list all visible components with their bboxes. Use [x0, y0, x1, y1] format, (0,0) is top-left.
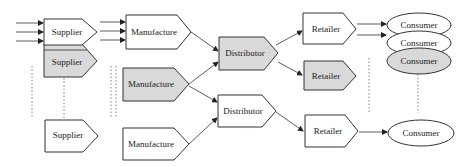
supplier-node-1[interactable]: Supplier — [44, 19, 97, 45]
supplier-label: Supplier — [53, 130, 84, 140]
manufacture-node-1[interactable]: Manufacture — [126, 15, 191, 49]
supplier-node-2[interactable]: Supplier — [44, 44, 97, 77]
manufacture-node-2[interactable]: Manufacture — [123, 68, 189, 101]
retailer-node-3[interactable]: Retailer — [305, 115, 358, 147]
manufacture-distributor-edges — [189, 32, 218, 144]
retailer-label: Retailer — [312, 71, 341, 81]
retailer-node-1[interactable]: Retailer — [303, 13, 356, 44]
consumer-label: Consumer — [401, 56, 438, 66]
supply-chain-diagram: Supplier Supplier Supplier Manufacture M… — [0, 0, 470, 167]
consumer-node-4[interactable]: Consumer — [388, 120, 454, 146]
manufacture-input-arrows — [100, 22, 125, 40]
manufacture-label: Manufacture — [128, 79, 174, 89]
supplier-input-arrows — [16, 23, 43, 41]
distributor-retailer-edges — [276, 31, 303, 131]
retailer-consumer-edges — [357, 24, 387, 132]
supplier-label: Supplier — [52, 27, 83, 37]
distributor-node-1[interactable]: Distributor — [219, 37, 278, 70]
distributor-label: Distributor — [223, 106, 263, 116]
distributor-label: Distributor — [225, 48, 265, 58]
consumer-label: Consumer — [403, 128, 440, 138]
consumer-label: Consumer — [401, 20, 438, 30]
manufacture-node-3[interactable]: Manufacture — [123, 128, 189, 160]
retailer-node-2[interactable]: Retailer — [304, 61, 356, 90]
manufacture-label: Manufacture — [128, 139, 174, 149]
supplier-node-3[interactable]: Supplier — [45, 120, 98, 152]
retailer-label: Retailer — [312, 24, 341, 34]
retailer-label: Retailer — [314, 126, 343, 136]
consumer-label: Consumer — [401, 38, 438, 48]
supplier-label: Supplier — [52, 57, 83, 67]
consumer-node-3[interactable]: Consumer — [387, 48, 451, 74]
manufacture-label: Manufacture — [131, 27, 177, 37]
distributor-node-2[interactable]: Distributor — [218, 95, 276, 127]
